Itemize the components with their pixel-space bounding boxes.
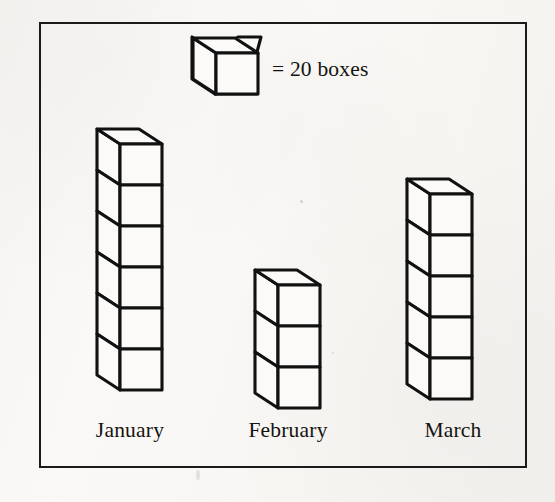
scan-artifact xyxy=(196,470,200,480)
pictograph-stack-february xyxy=(251,265,327,415)
category-label-february: February xyxy=(228,418,348,443)
pictograph-stack-march xyxy=(403,174,479,414)
legend-cube-icon xyxy=(188,32,266,100)
scanned-page-background: = 20 boxes January February xyxy=(0,0,555,502)
legend-label: = 20 boxes xyxy=(272,57,369,82)
category-label-january: January xyxy=(70,418,190,443)
pictograph-stack-january xyxy=(93,124,169,414)
category-label-march: March xyxy=(393,418,513,443)
